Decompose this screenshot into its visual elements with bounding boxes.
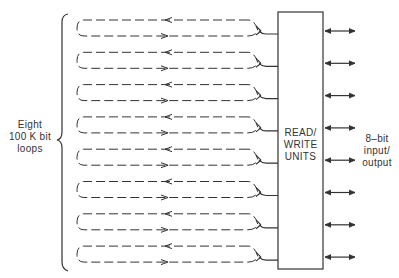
- read-write-head-icon: [256, 123, 261, 132]
- io-double-arrow: [325, 125, 355, 130]
- loops-label: Eight 100 K bit loops: [2, 119, 58, 155]
- memory-loop: [77, 82, 278, 103]
- memory-loop: [77, 179, 278, 200]
- io-double-arrow: [325, 255, 355, 260]
- memory-loop: [77, 211, 278, 232]
- memory-loop: [77, 244, 278, 265]
- box-label-line-3: UNITS: [278, 151, 323, 163]
- read-write-units-label: READ/ WRITE UNITS: [278, 127, 323, 163]
- box-label-line-2: WRITE: [278, 139, 323, 151]
- memory-loop: [77, 114, 278, 135]
- memory-loop: [77, 147, 278, 168]
- io-double-arrow: [325, 158, 355, 163]
- read-write-head-icon: [256, 252, 261, 261]
- loops-label-line-3: loops: [2, 143, 58, 155]
- loops-label-line-1: Eight: [2, 119, 58, 131]
- io-double-arrow: [325, 222, 355, 227]
- io-label-line-1: 8–bit: [356, 133, 398, 145]
- read-write-head-icon: [256, 155, 261, 164]
- memory-loop: [77, 18, 278, 39]
- io-label: 8–bit input/ output: [356, 133, 398, 169]
- bubble-memory-diagram: [0, 0, 399, 278]
- curly-brace: [57, 14, 68, 271]
- box-label-line-1: READ/: [278, 127, 323, 139]
- read-write-head-icon: [256, 188, 261, 197]
- io-double-arrow: [325, 61, 355, 66]
- io-label-line-2: input/: [356, 145, 398, 157]
- read-write-head-icon: [256, 58, 261, 67]
- io-double-arrow: [325, 93, 355, 98]
- io-double-arrow: [325, 190, 355, 195]
- read-write-head-icon: [256, 91, 261, 100]
- read-write-head-icon: [256, 220, 261, 229]
- read-write-head-icon: [256, 26, 261, 35]
- io-double-arrow: [325, 29, 355, 34]
- loops-label-line-2: 100 K bit: [2, 131, 58, 143]
- io-label-line-3: output: [356, 157, 398, 169]
- memory-loop: [77, 50, 278, 71]
